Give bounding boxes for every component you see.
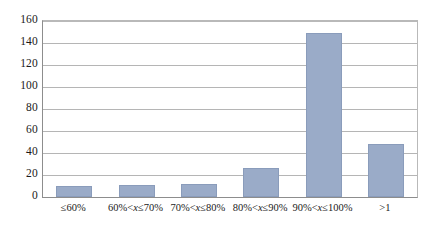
bar-series [43,21,417,197]
x-axis-tick-label: 70%<x≤80% [170,201,225,215]
x-axis-tick-label: 80%<x≤90% [233,201,288,215]
bar [306,33,342,197]
y-axis-tick-label: 100 [4,80,38,92]
y-axis-tick-label: 0 [4,190,38,202]
y-axis-tick-label: 140 [4,36,38,48]
bar [368,144,404,197]
y-axis-tick-label: 160 [4,14,38,26]
bar [56,186,92,197]
bar [119,185,155,197]
y-axis-tick-label: 60 [4,124,38,136]
y-axis-tick-label: 80 [4,102,38,114]
y-axis-tick-labels: 020406080100120140160 [0,20,38,198]
bar [243,168,279,197]
bar-chart: 020406080100120140160 ≤60%60%<x≤70%70%<x… [0,0,429,231]
y-axis-tick-label: 20 [4,168,38,180]
plot-area [42,20,418,198]
bar [181,184,217,197]
x-axis-tick-labels: ≤60%60%<x≤70%70%<x≤80%80%<x≤90%90%<x≤100… [42,201,418,225]
y-axis-tick-label: 40 [4,146,38,158]
x-axis-tick-label: 60%<x≤70% [108,201,163,215]
x-axis-tick-label: 90%<x≤100% [292,201,352,215]
x-axis-tick-label: ≤60% [61,201,86,215]
y-axis-tick-label: 120 [4,58,38,70]
x-axis-tick-label: >1 [379,201,390,215]
